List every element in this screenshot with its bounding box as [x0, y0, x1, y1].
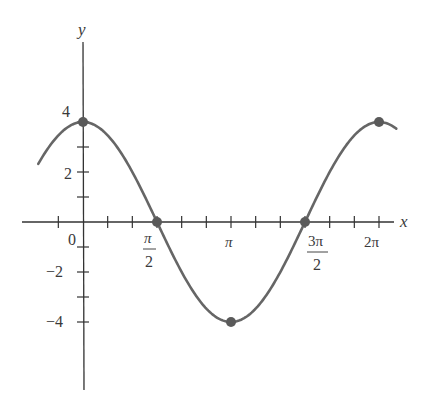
data-point	[152, 217, 162, 227]
y-tick-label-4: 4	[62, 103, 70, 120]
data-point	[300, 217, 310, 227]
x-tick-label-pi-half-den: 2	[145, 253, 153, 270]
x-tick-label-pi: π	[225, 234, 233, 250]
origin-label: 0	[68, 231, 76, 248]
x-tick-label-three-pi-half-den: 2	[313, 256, 321, 273]
x-tick-label-two-pi: 2π	[364, 234, 380, 250]
data-point	[374, 117, 384, 127]
y-axis	[83, 42, 84, 390]
y-tick-label-2: 2	[64, 165, 72, 182]
x-axis-label: x	[399, 212, 408, 231]
y-axis-label: y	[76, 20, 86, 39]
data-point	[226, 317, 236, 327]
x-tick-label-pi-half-num: π	[144, 230, 152, 246]
data-point	[78, 117, 88, 127]
x-tick-label-three-pi-half-num: 3π	[308, 233, 324, 249]
y-tick-label-neg4: −4	[46, 313, 63, 330]
y-tick-label-neg2: −2	[46, 263, 63, 280]
cosine-chart: y x 0 π 2 π 3π 2 2π 4 2 −2 −4	[0, 0, 434, 407]
